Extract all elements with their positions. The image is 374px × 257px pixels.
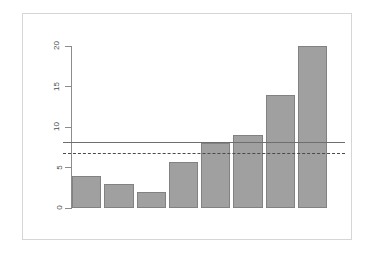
y-axis-tick-label: 5 [23,163,61,172]
y-axis-tick-mark [65,86,71,87]
y-axis-tick-mark [65,167,71,168]
solid-reference-line [63,142,345,143]
bar-chart: 05101520 [23,14,353,241]
plot-card: 05101520 [22,13,352,240]
dashed-reference-line [63,153,345,154]
y-axis-tick-label: 20 [23,41,61,50]
bar [137,192,166,208]
y-axis-tick-mark [65,46,71,47]
bar [104,184,133,208]
bar [266,95,295,208]
screenshot-root: 05101520 [0,0,374,257]
bar [298,46,327,208]
y-axis-tick-mark [65,127,71,128]
y-axis-tick-mark [65,208,71,209]
y-axis-tick-label: 15 [23,82,61,91]
y-axis-tick-label: 0 [23,203,61,212]
bar [233,135,262,208]
bar [169,162,198,208]
y-axis-tick-label: 10 [23,122,61,131]
bar [72,176,101,208]
